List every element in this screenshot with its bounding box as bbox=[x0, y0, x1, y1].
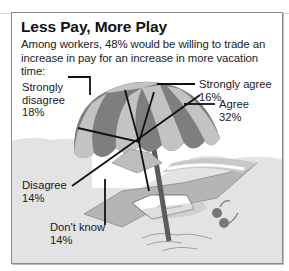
infographic-frame: Less Pay, More Play Among workers, 48% w… bbox=[11, 12, 283, 264]
label-dont-know: Don't know 14% bbox=[50, 221, 105, 246]
label-agree: Agree 32% bbox=[219, 98, 249, 123]
label-strongly-disagree: Strongly disagree 18% bbox=[22, 81, 65, 119]
label-disagree: Disagree 14% bbox=[22, 179, 67, 204]
